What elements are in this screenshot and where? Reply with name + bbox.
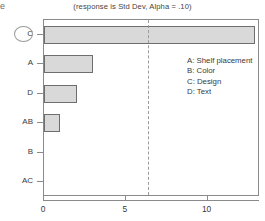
reference-line — [148, 20, 149, 195]
y-label-wrap-d: D — [0, 88, 33, 98]
x-axis-label-10: 10 — [192, 204, 222, 214]
x-axis-line — [43, 200, 259, 201]
x-axis-label-5: 5 — [110, 204, 140, 214]
y-label-wrap-b: B — [0, 147, 33, 157]
y-axis-label-d: D — [0, 88, 33, 98]
bar-a — [44, 55, 93, 73]
y-tick-ab — [37, 122, 43, 123]
chart-title: (response is Std Dev, Alpha = .10) — [0, 2, 265, 11]
y-tick-ac — [37, 181, 43, 182]
y-tick-b — [37, 152, 43, 153]
y-label-wrap-a: A — [0, 58, 33, 68]
y-tick-d — [37, 93, 43, 94]
pareto-chart-screenshot: e (response is Std Dev, Alpha = .10) CAD… — [0, 0, 265, 221]
y-label-wrap-c: C — [0, 29, 33, 39]
y-axis-label-b: B — [0, 147, 33, 157]
x-tick-0 — [43, 196, 44, 201]
legend-item-b: B: Color — [187, 66, 252, 76]
y-label-wrap-ac: AC — [0, 176, 33, 186]
plot-area — [43, 19, 259, 196]
legend-item-d: D: Text — [187, 87, 252, 97]
plot-inner — [44, 20, 258, 195]
bar-ab — [44, 114, 60, 132]
y-axis-label-a: A — [0, 58, 33, 68]
bar-c — [44, 26, 255, 44]
x-tick-10 — [207, 196, 208, 201]
x-axis-label-0: 0 — [28, 204, 58, 214]
legend-item-c: C: Design — [187, 77, 252, 87]
y-axis-label-ab: AB — [0, 117, 33, 127]
y-label-wrap-ab: AB — [0, 117, 33, 127]
legend-item-a: A: Shelf placement — [187, 56, 252, 66]
x-tick-5 — [125, 196, 126, 201]
legend: A: Shelf placementB: ColorC: DesignD: Te… — [187, 56, 252, 98]
y-axis-label-c: C — [0, 29, 33, 39]
bar-d — [44, 85, 77, 103]
y-tick-a — [37, 63, 43, 64]
y-axis-label-ac: AC — [0, 176, 33, 186]
y-tick-c — [37, 34, 43, 35]
